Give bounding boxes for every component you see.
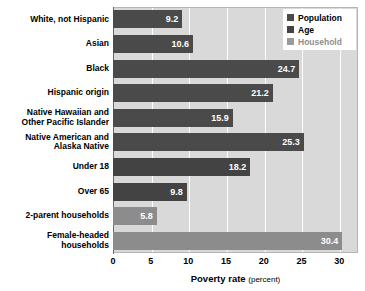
x-tick-label: 25 bbox=[296, 256, 306, 266]
category-label: White, not Hispanic bbox=[0, 15, 109, 25]
category-label: Native American and Alaska Native bbox=[0, 133, 109, 152]
legend-swatch-icon bbox=[287, 14, 294, 21]
bar-value-label: 10.6 bbox=[171, 39, 189, 49]
category-label: Female-headed households bbox=[0, 231, 109, 250]
category-label: Under 18 bbox=[0, 162, 109, 172]
bar: 15.9 bbox=[113, 109, 233, 127]
category-label: Native Hawaiian and Other Pacific Island… bbox=[0, 108, 109, 127]
bar: 9.8 bbox=[113, 183, 187, 201]
bar: 24.7 bbox=[113, 60, 299, 78]
x-axis-title: Poverty rate (percent) bbox=[113, 273, 358, 284]
category-label: Asian bbox=[0, 39, 109, 49]
x-tick-label: 15 bbox=[221, 256, 231, 266]
legend-swatch-icon bbox=[287, 26, 294, 33]
bar: 5.8 bbox=[113, 207, 157, 225]
x-axis-title-unit: (percent) bbox=[248, 275, 280, 284]
category-label: 2-parent households bbox=[0, 211, 109, 221]
bar-value-label: 18.2 bbox=[229, 162, 247, 172]
legend-label: Age bbox=[298, 25, 314, 35]
bar-value-label: 21.2 bbox=[251, 88, 269, 98]
legend-item: Household bbox=[287, 36, 353, 47]
bar-value-label: 24.7 bbox=[278, 64, 296, 74]
poverty-rate-bar-chart: 9.210.624.721.215.925.318.29.85.830.4 Wh… bbox=[0, 0, 365, 291]
bar: 21.2 bbox=[113, 84, 273, 102]
legend-item: Population bbox=[287, 12, 353, 23]
x-tick-label: 10 bbox=[183, 256, 193, 266]
legend-item: Age bbox=[287, 24, 353, 35]
x-tick-label: 30 bbox=[334, 256, 344, 266]
bar-value-label: 5.8 bbox=[140, 211, 153, 221]
bar-value-label: 9.2 bbox=[166, 14, 179, 24]
x-tick-label: 0 bbox=[110, 256, 115, 266]
legend-label: Population bbox=[298, 13, 342, 23]
chart-legend: PopulationAgeHousehold bbox=[283, 9, 356, 50]
legend-label: Household bbox=[298, 37, 342, 47]
legend-swatch-icon bbox=[287, 38, 294, 45]
category-label: Hispanic origin bbox=[0, 88, 109, 98]
bar: 30.4 bbox=[113, 232, 342, 250]
bar: 25.3 bbox=[113, 133, 304, 151]
bar-value-label: 25.3 bbox=[282, 137, 300, 147]
x-axis-tick-labels: 051015202530 bbox=[113, 256, 358, 270]
category-axis-labels: White, not HispanicAsianBlackHispanic or… bbox=[0, 7, 109, 253]
bar: 9.2 bbox=[113, 10, 182, 28]
bar-value-label: 30.4 bbox=[321, 236, 339, 246]
x-tick-label: 5 bbox=[148, 256, 153, 266]
category-label: Black bbox=[0, 64, 109, 74]
x-tick-label: 20 bbox=[259, 256, 269, 266]
bar: 18.2 bbox=[113, 158, 250, 176]
bar-value-label: 9.8 bbox=[170, 187, 183, 197]
category-label: Over 65 bbox=[0, 187, 109, 197]
bar: 10.6 bbox=[113, 35, 193, 53]
x-axis-title-main: Poverty rate bbox=[191, 273, 246, 284]
bar-value-label: 15.9 bbox=[211, 113, 229, 123]
